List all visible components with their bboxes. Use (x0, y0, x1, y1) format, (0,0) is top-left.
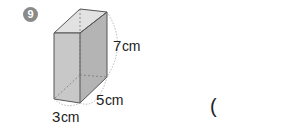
answer-open-paren: ( (210, 95, 217, 118)
rectangular-prism-figure (0, 0, 293, 139)
height-label: 7cm (113, 37, 140, 54)
depth-label: 5cm (96, 91, 123, 108)
width-label: 3cm (52, 108, 79, 125)
prism-front-face (54, 33, 80, 103)
